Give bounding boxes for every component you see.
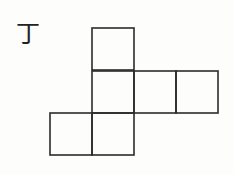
net-square-5 (50, 113, 92, 155)
net-square-1 (92, 28, 134, 70)
net-square-6 (92, 113, 134, 155)
net-square-4 (176, 71, 218, 113)
net-square-2 (92, 71, 134, 113)
cube-net-diagram (0, 0, 233, 174)
net-square-3 (134, 71, 176, 113)
